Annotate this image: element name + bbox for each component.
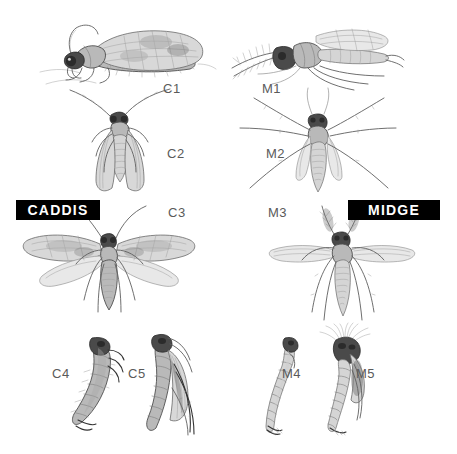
caddis-banner-label: CADDIS bbox=[28, 202, 89, 218]
figure-caddis-adult-dorsal-spread bbox=[18, 206, 200, 316]
figure-caddis-larva bbox=[68, 334, 126, 434]
figure-midge-larva bbox=[258, 336, 304, 436]
label-m4: M4 bbox=[282, 366, 301, 381]
label-c2: C2 bbox=[167, 146, 185, 161]
figure-caddis-adult-lateral bbox=[38, 16, 218, 88]
label-c4: C4 bbox=[52, 366, 70, 381]
figure-midge-pupa bbox=[318, 326, 374, 436]
illustration-plate: C1 bbox=[0, 0, 457, 454]
caddis-banner: CADDIS bbox=[16, 200, 100, 220]
label-c3: C3 bbox=[168, 205, 186, 220]
label-m2: M2 bbox=[266, 146, 285, 161]
midge-banner: MIDGE bbox=[348, 200, 440, 220]
label-m3: M3 bbox=[268, 205, 287, 220]
figure-caddis-pupa bbox=[144, 332, 200, 436]
label-m5: M5 bbox=[356, 366, 375, 381]
figure-midge-adult-lateral bbox=[228, 18, 413, 90]
figure-caddis-adult-dorsal-folded bbox=[62, 88, 178, 196]
label-c5: C5 bbox=[128, 366, 146, 381]
midge-banner-label: MIDGE bbox=[368, 202, 420, 218]
figure-midge-adult-dorsal bbox=[238, 88, 398, 198]
figure-midge-adult-dorsal-spread bbox=[268, 206, 418, 322]
